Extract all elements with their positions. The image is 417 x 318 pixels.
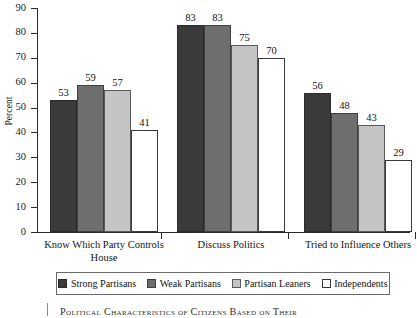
- chart-figure: Percent 0102030405060708090 535957418383…: [0, 0, 417, 318]
- plot-area: 535957418383757056484329: [37, 8, 410, 232]
- legend-item[interactable]: Strong Partisans: [58, 279, 136, 289]
- y-tick-label: 20: [2, 177, 26, 187]
- bar-value-label: 70: [255, 45, 288, 56]
- bar-value-label: 43: [355, 112, 388, 123]
- bar[interactable]: [204, 25, 231, 232]
- x-group-tick: [161, 232, 162, 239]
- bar[interactable]: [385, 160, 412, 232]
- bar[interactable]: [258, 58, 285, 232]
- legend: Strong PartisansWeak PartisansPartisan L…: [56, 272, 390, 295]
- legend-label: Weak Partisans: [160, 279, 221, 289]
- y-tick-label: 40: [2, 127, 26, 137]
- figure-caption: Political Characteristics of Citizens Ba…: [60, 305, 410, 318]
- bar[interactable]: [331, 113, 358, 232]
- y-tick-mark: [31, 232, 37, 233]
- bar-value-label: 56: [301, 80, 334, 91]
- legend-swatch-icon: [58, 279, 67, 288]
- legend-label: Strong Partisans: [71, 279, 136, 289]
- bar[interactable]: [177, 25, 204, 232]
- x-axis-line: [37, 232, 410, 233]
- legend-item[interactable]: Weak Partisans: [147, 279, 221, 289]
- bar-value-label: 83: [201, 12, 234, 23]
- y-tick-label: 10: [2, 202, 26, 212]
- y-tick-label: 30: [2, 152, 26, 162]
- y-tick-label: 0: [2, 227, 26, 237]
- bar[interactable]: [131, 130, 158, 232]
- bar-value-label: 75: [228, 32, 261, 43]
- bar[interactable]: [358, 125, 385, 232]
- bar[interactable]: [231, 45, 258, 232]
- legend-swatch-icon: [147, 279, 156, 288]
- y-tick-label: 60: [2, 77, 26, 87]
- bar[interactable]: [304, 93, 331, 232]
- legend-label: Independents: [334, 279, 387, 289]
- y-tick-label: 80: [2, 27, 26, 37]
- legend-swatch-icon: [322, 279, 331, 288]
- legend-item[interactable]: Independents: [322, 279, 388, 289]
- legend-item[interactable]: Partisan Leaners: [232, 279, 311, 289]
- x-group-tick: [288, 232, 289, 239]
- bar-value-label: 29: [382, 147, 415, 158]
- legend-label: Partisan Leaners: [244, 279, 310, 289]
- y-tick-label: 90: [2, 3, 26, 13]
- bar[interactable]: [50, 100, 77, 232]
- y-tick-label: 50: [2, 102, 26, 112]
- legend-swatch-icon: [232, 279, 241, 288]
- category-label: Tried to Influence Others: [273, 239, 417, 252]
- bar[interactable]: [104, 90, 131, 232]
- bar-value-label: 41: [128, 117, 161, 128]
- caption-rule: [47, 303, 48, 316]
- bar-value-label: 48: [328, 100, 361, 111]
- bar-value-label: 53: [47, 87, 80, 98]
- x-group-tick: [415, 232, 416, 239]
- bar[interactable]: [77, 85, 104, 232]
- bar-value-label: 57: [101, 77, 134, 88]
- y-tick-label: 70: [2, 52, 26, 62]
